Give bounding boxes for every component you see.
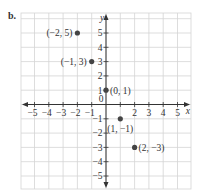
x-tick-label: 5: [175, 108, 180, 118]
x-tick-label: 4: [161, 108, 166, 118]
coordinate-plane: −5−4−3−2−1234554321−1−2−3−4−50xy(−2, 5)(…: [0, 0, 198, 190]
y-tick-label: −2: [92, 128, 102, 138]
point-label: (−2, 5): [46, 28, 72, 39]
tick-labels: −5−4−3−2−1234554321−1−2−3−4−50xy(−2, 5)(…: [27, 13, 190, 181]
data-point: [103, 88, 108, 93]
x-tick-label: −5: [27, 108, 37, 118]
point-label: (2, −3): [139, 143, 165, 154]
y-tick-label: −5: [92, 171, 102, 181]
y-tick-label: −4: [92, 157, 102, 167]
point-label: (1, −1): [107, 124, 133, 135]
y-tick-label: 4: [98, 43, 103, 53]
data-point: [75, 30, 80, 35]
point-label: (0, 1): [110, 86, 131, 97]
point-label: (−1, 3): [61, 57, 87, 68]
y-axis-down-arrow-icon: [104, 182, 109, 188]
y-tick-label: −3: [92, 143, 102, 153]
x-axis-left-arrow-icon: [22, 102, 28, 107]
x-axis-label: x: [185, 106, 191, 116]
origin-label: 0: [99, 94, 104, 104]
x-tick-label: −3: [56, 108, 66, 118]
y-tick-label: 5: [98, 28, 103, 38]
data-point: [89, 59, 94, 64]
y-tick-label: 2: [98, 71, 103, 81]
y-tick-label: 3: [98, 57, 103, 67]
y-tick-label: −1: [92, 114, 102, 124]
x-tick-label: 2: [132, 108, 137, 118]
y-axis-up-arrow-icon: [104, 14, 109, 20]
data-point: [132, 145, 137, 150]
x-tick-label: −4: [42, 108, 52, 118]
x-tick-label: 3: [147, 108, 152, 118]
y-axis-label: y: [99, 13, 105, 23]
data-point: [118, 116, 123, 121]
x-tick-label: −2: [70, 108, 80, 118]
